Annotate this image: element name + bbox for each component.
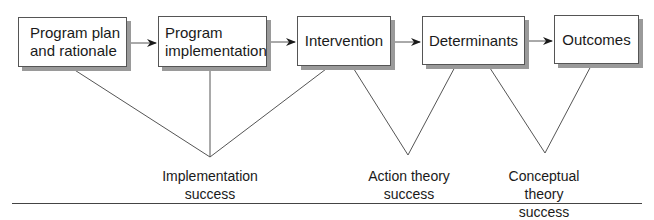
caption-implementation-success: Implementation success	[162, 167, 258, 203]
bottom-divider	[12, 203, 642, 204]
box-label: Program implementation	[165, 24, 267, 60]
box-outcomes: Outcomes	[554, 15, 639, 64]
box-label: Program plan and rationale	[30, 24, 120, 60]
caption-action-theory-success: Action theory success	[368, 167, 450, 203]
caption-conceptual-theory-success: Conceptual theory success	[489, 167, 599, 220]
box-label: Determinants	[429, 32, 518, 50]
box-program-plan: Program plan and rationale	[18, 17, 127, 67]
line-outcomes-to-conceptual-success	[545, 64, 592, 153]
line-intervention-to-action-success	[352, 66, 408, 155]
box-intervention: Intervention	[297, 16, 391, 66]
box-program-implementation: Program implementation	[158, 16, 267, 67]
line-determinants-to-action-success	[408, 65, 456, 155]
line-determinants-to-conceptual-success	[488, 65, 545, 153]
box-label: Intervention	[305, 32, 383, 50]
line-intervention-to-implementation-success	[210, 66, 330, 157]
box-determinants: Determinants	[422, 16, 525, 65]
box-label: Outcomes	[562, 31, 630, 49]
line-plan-to-implementation-success	[70, 67, 210, 157]
